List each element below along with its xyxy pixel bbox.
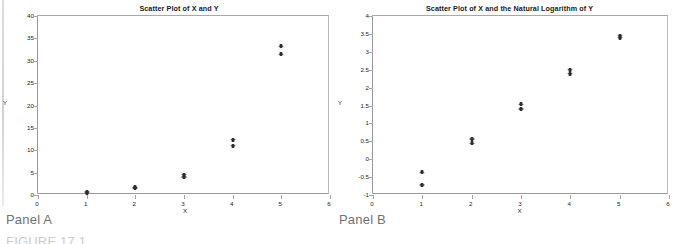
x-tick-label-b-3: 3 xyxy=(518,200,521,207)
data-point-b-9 xyxy=(618,36,621,40)
y-axis-title-panel-a: Y xyxy=(3,100,7,105)
panel-caption-a: Panel A xyxy=(6,212,52,227)
data-point-b-0 xyxy=(421,170,424,174)
data-point-b-7 xyxy=(569,72,572,76)
chart-title-panel-b: Scatter Plot of X and the Natural Logari… xyxy=(336,4,673,13)
x-tick-b-2 xyxy=(472,195,473,199)
y-tick-label-b-8: 3 xyxy=(366,47,369,54)
data-point-b-3 xyxy=(470,141,473,145)
x-tick-a-4 xyxy=(233,195,234,199)
y-axis-line-panel-a xyxy=(37,16,38,193)
x-tick-a-5 xyxy=(281,195,282,199)
data-point-b-5 xyxy=(520,107,523,111)
y-tick-a-2 xyxy=(34,150,38,151)
data-point-a-8 xyxy=(280,44,283,48)
y-tick-label-b-5: 1.5 xyxy=(360,101,369,108)
y-tick-label-b-1: -0.5 xyxy=(358,173,369,180)
x-tick-label-b-2: 2 xyxy=(469,200,472,207)
y-tick-label-b-4: 1 xyxy=(366,119,369,126)
y-tick-label-b-9: 3.5 xyxy=(360,29,369,36)
x-tick-label-a-6: 6 xyxy=(327,200,330,207)
x-tick-b-1 xyxy=(422,195,423,199)
x-tick-b-3 xyxy=(521,195,522,199)
y-tick-a-3 xyxy=(34,128,38,129)
y-tick-b-8 xyxy=(369,52,373,53)
y-tick-b-3 xyxy=(369,141,373,142)
panel-caption-b: Panel B xyxy=(339,212,386,227)
x-axis-line-panel-a xyxy=(38,193,328,194)
x-tick-b-0 xyxy=(373,195,374,199)
y-tick-b-5 xyxy=(369,106,373,107)
x-axis-line-panel-b xyxy=(373,193,667,194)
panel-b: Scatter Plot of X and the Natural Logari… xyxy=(336,0,673,244)
x-tick-b-5 xyxy=(620,195,621,199)
figure-page: Scatter Plot of X and Y 0510152025303540… xyxy=(0,0,673,244)
y-tick-label-a-2: 10 xyxy=(27,146,34,153)
x-tick-a-3 xyxy=(184,195,185,199)
y-tick-label-b-3: 0.5 xyxy=(360,137,369,144)
y-tick-b-2 xyxy=(369,159,373,160)
data-point-a-6 xyxy=(231,138,234,142)
x-axis-title-panel-b: X xyxy=(336,207,673,214)
y-tick-label-a-0: 0 xyxy=(31,191,34,198)
y-axis-line-panel-b xyxy=(372,16,373,193)
y-tick-label-b-7: 2.5 xyxy=(360,65,369,72)
y-tick-label-a-3: 15 xyxy=(27,123,34,130)
figure-caption: FIGURE 17.1 xyxy=(6,234,86,244)
plot-area-panel-b xyxy=(372,15,668,194)
x-tick-a-1 xyxy=(87,195,88,199)
data-point-a-5 xyxy=(183,175,186,179)
data-point-a-9 xyxy=(280,52,283,56)
y-axis-title-panel-b: Y xyxy=(338,100,342,105)
x-tick-a-0 xyxy=(38,195,39,199)
y-tick-label-b-2: 0 xyxy=(366,155,369,162)
y-tick-label-a-5: 25 xyxy=(27,79,34,86)
y-tick-b-1 xyxy=(369,177,373,178)
x-tick-label-b-5: 5 xyxy=(617,200,620,207)
y-tick-b-6 xyxy=(369,88,373,89)
panel-a: Scatter Plot of X and Y 0510152025303540… xyxy=(0,0,336,244)
data-point-a-7 xyxy=(231,144,234,148)
x-tick-b-6 xyxy=(669,195,670,199)
x-tick-a-6 xyxy=(330,195,331,199)
y-tick-a-6 xyxy=(34,61,38,62)
chart-title-panel-a: Scatter Plot of X and Y xyxy=(0,4,336,13)
y-tick-a-1 xyxy=(34,173,38,174)
y-tick-label-a-6: 30 xyxy=(27,56,34,63)
x-tick-label-a-0: 0 xyxy=(35,200,38,207)
y-tick-b-4 xyxy=(369,123,373,124)
y-tick-b-10 xyxy=(369,16,373,17)
x-tick-label-b-6: 6 xyxy=(666,200,669,207)
x-tick-label-a-4: 4 xyxy=(230,200,233,207)
x-tick-a-2 xyxy=(135,195,136,199)
y-tick-label-a-4: 20 xyxy=(27,101,34,108)
y-tick-label-a-8: 40 xyxy=(27,12,34,19)
data-point-b-1 xyxy=(421,183,424,187)
y-tick-label-a-7: 35 xyxy=(27,34,34,41)
data-point-b-4 xyxy=(520,102,523,106)
y-tick-a-5 xyxy=(34,83,38,84)
y-tick-a-8 xyxy=(34,16,38,17)
y-tick-b-9 xyxy=(369,34,373,35)
y-tick-a-4 xyxy=(34,106,38,107)
x-tick-label-b-4: 4 xyxy=(568,200,571,207)
y-tick-label-b-10: 4 xyxy=(366,12,369,19)
x-tick-label-a-2: 2 xyxy=(133,200,136,207)
y-tick-label-b-6: 2 xyxy=(366,83,369,90)
plot-area-panel-a xyxy=(37,15,329,194)
y-tick-label-b-0: -1 xyxy=(363,191,369,198)
x-tick-label-b-0: 0 xyxy=(370,200,373,207)
x-tick-label-a-1: 1 xyxy=(84,200,87,207)
data-point-a-3 xyxy=(134,186,137,190)
y-tick-b-7 xyxy=(369,70,373,71)
y-tick-label-a-1: 5 xyxy=(31,168,34,175)
x-tick-label-b-1: 1 xyxy=(420,200,423,207)
x-tick-b-4 xyxy=(570,195,571,199)
x-tick-label-a-5: 5 xyxy=(279,200,282,207)
x-tick-label-a-3: 3 xyxy=(181,200,184,207)
data-point-a-1 xyxy=(85,191,88,195)
y-tick-a-7 xyxy=(34,38,38,39)
